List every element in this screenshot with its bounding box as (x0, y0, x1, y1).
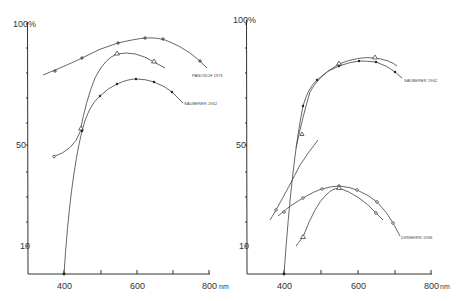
series-triangle-right-lower (296, 186, 342, 247)
y-label-100: 100% (13, 19, 36, 29)
label-panosch: PANOSCH 1973 (192, 73, 223, 78)
y-label-50: 50 (16, 140, 26, 150)
x-unit-label: nm (219, 283, 229, 290)
y-label-100: 100% (233, 15, 256, 25)
x-label-600: 600 (130, 281, 145, 291)
left-chart-plot: 100% 50 10 400 600 800 nm PANOSCH 1973 (0, 0, 231, 301)
x-label-800: 800 (424, 281, 439, 291)
label-sauberer-left: SAUBERER 1962 (184, 101, 218, 106)
series-panosch: PANOSCH 1973 (43, 36, 223, 78)
x-unit-label: nm (440, 283, 450, 290)
series-sauberer-right: SAUBERER 1962 (283, 60, 438, 276)
series-triangle-left (53, 51, 165, 158)
right-chart: 100% 50 10 400 600 800 nm SAUBERER 1962 (231, 0, 462, 301)
x-label-800: 800 (202, 281, 217, 291)
y-label-10: 10 (20, 241, 30, 251)
left-axes (26, 22, 210, 274)
x-label-600: 600 (351, 281, 366, 291)
series-triangle-right-upper (296, 55, 397, 148)
label-dirmhirn: DIRMHIRN 1968 (401, 235, 433, 240)
series-dirmhirn: DIRMHIRN 1968 (278, 185, 433, 240)
y-label-50: 50 (236, 140, 246, 150)
right-chart-plot: 100% 50 10 400 600 800 nm SAUBERER 1962 (231, 0, 462, 301)
x-label-400: 400 (277, 281, 292, 291)
series-sauberer-left: SAUBERER 1962 (63, 78, 218, 276)
label-sauberer-right: SAUBERER 1962 (404, 78, 438, 83)
left-chart: 100% 50 10 400 600 800 nm PANOSCH 1973 (0, 0, 231, 301)
x-label-400: 400 (57, 281, 72, 291)
y-label-10: 10 (239, 241, 249, 251)
